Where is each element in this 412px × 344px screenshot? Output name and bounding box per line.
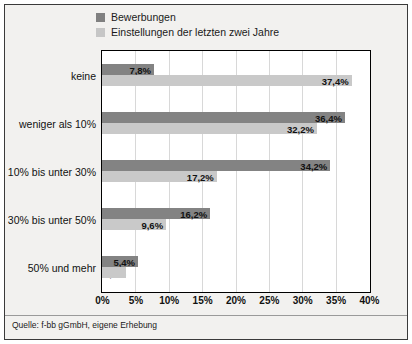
bar-value-label: 16,2% <box>180 208 207 219</box>
y-axis-label-4: 50% und mehr <box>28 262 96 274</box>
x-tick-35pct: 35% <box>326 295 346 306</box>
bar-1-3[interactable]: 9,6% <box>102 219 166 230</box>
x-tick-10pct: 10% <box>159 295 179 306</box>
x-tick-0pct: 0% <box>95 295 109 306</box>
legend-swatch-icon-einstellungen <box>96 28 105 37</box>
bar-0-2[interactable]: 34,2% <box>102 160 330 171</box>
bar-0-0[interactable]: 7,8% <box>102 64 154 75</box>
bar-1-1[interactable]: 32,2% <box>102 123 317 134</box>
bar-group-1: 36,4%32,2% <box>102 112 370 134</box>
chart-legend: Bewerbungen Einstellungen der letzten zw… <box>96 10 396 40</box>
x-tick-15pct: 15% <box>193 295 213 306</box>
bar-value-label: 5,4% <box>113 256 135 267</box>
legend-label-bewerbungen: Bewerbungen <box>111 11 176 23</box>
source-note: Quelle: f-bb gGmbH, eigene Erhebung <box>12 320 157 330</box>
bar-1-4[interactable] <box>102 267 126 278</box>
bar-value-label: 36,4% <box>315 112 342 123</box>
legend-label-einstellungen: Einstellungen der letzten zwei Jahre <box>111 26 279 38</box>
x-tick-30pct: 30% <box>293 295 313 306</box>
bar-0-1[interactable]: 36,4% <box>102 112 345 123</box>
bar-row: 32,2% <box>102 123 370 134</box>
bar-group-2: 34,2%17,2% <box>102 160 370 182</box>
bar-row: 7,8% <box>102 64 370 75</box>
x-axis-ticks: 0%5%10%15%20%25%30%35%40% <box>101 295 371 311</box>
bar-group-0: 7,8%37,4% <box>102 64 370 86</box>
x-tick-25pct: 25% <box>259 295 279 306</box>
figure-container: Bewerbungen Einstellungen der letzten zw… <box>0 0 412 344</box>
y-axis-label-2: 10% bis unter 30% <box>8 166 96 178</box>
bar-group-4: 5,4%3,6% <box>102 256 370 278</box>
source-divider <box>5 315 407 316</box>
bar-value-label: 34,2% <box>300 160 327 171</box>
bar-row: 16,2% <box>102 208 370 219</box>
plot-area: 7,8%37,4%36,4%32,2%34,2%17,2%16,2%9,6%5,… <box>101 50 371 293</box>
x-tick-20pct: 20% <box>226 295 246 306</box>
bar-row: 37,4% <box>102 75 370 86</box>
x-tick-40pct: 40% <box>359 295 379 306</box>
y-axis-category-labels: keine weniger als 10% 10% bis unter 30% … <box>6 50 96 293</box>
bar-value-label: 32,2% <box>287 123 314 134</box>
bar-row: 34,2% <box>102 160 370 171</box>
bar-row: 17,2% <box>102 171 370 182</box>
bar-0-3[interactable]: 16,2% <box>102 208 210 219</box>
y-axis-label-3: 30% bis unter 50% <box>8 214 96 226</box>
plot-wrapper: 7,8%37,4%36,4%32,2%34,2%17,2%16,2%9,6%5,… <box>101 50 371 293</box>
legend-item-einstellungen: Einstellungen der letzten zwei Jahre <box>96 25 396 39</box>
bar-value-label: 17,2% <box>187 171 214 182</box>
y-axis-label-1: weniger als 10% <box>19 118 96 130</box>
y-axis-label-0: keine <box>71 70 96 82</box>
bar-1-2[interactable]: 17,2% <box>102 171 217 182</box>
x-tick-5pct: 5% <box>129 295 143 306</box>
bar-value-label: 9,6% <box>141 219 163 230</box>
bar-value-label: 7,8% <box>129 64 151 75</box>
bar-1-0[interactable]: 37,4% <box>102 75 352 86</box>
legend-swatch-icon-bewerbungen <box>96 13 105 22</box>
bar-row: 9,6% <box>102 219 370 230</box>
legend-item-bewerbungen: Bewerbungen <box>96 10 396 24</box>
bar-value-label: 37,4% <box>322 75 349 86</box>
bar-row: 3,6% <box>102 267 370 278</box>
bar-group-3: 16,2%9,6% <box>102 208 370 230</box>
bar-row: 5,4% <box>102 256 370 267</box>
bar-row: 36,4% <box>102 112 370 123</box>
bar-0-4[interactable]: 5,4% <box>102 256 138 267</box>
